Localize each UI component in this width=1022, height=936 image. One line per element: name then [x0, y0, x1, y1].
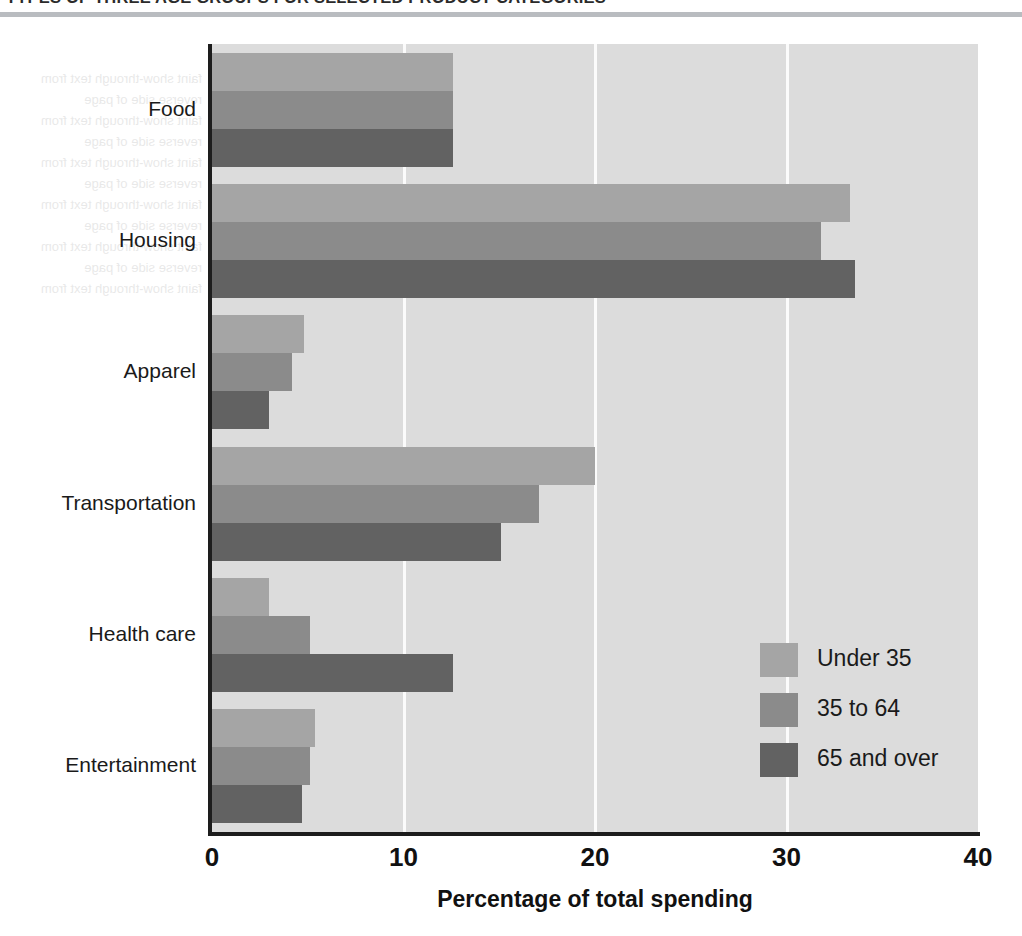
y-axis-line	[208, 44, 212, 834]
bar-food-35-to-64	[212, 91, 453, 129]
bar-housing-under-35	[212, 184, 850, 222]
bar-food-65-and-over	[212, 129, 453, 167]
legend-label-35-to-64: 35 to 64	[817, 695, 900, 722]
x-tick-label-20: 20	[555, 842, 635, 873]
bar-housing-35-to-64	[212, 222, 821, 260]
figure-header: TYPES OF THREE AGE GROUPS FOR SELECTED P…	[0, 0, 1022, 24]
category-label-health-care: Health care	[0, 622, 196, 646]
bar-apparel-under-35	[212, 315, 304, 353]
bar-health-care-under-35	[212, 578, 269, 616]
category-label-transportation: Transportation	[0, 491, 196, 515]
ghost-text-line: faint show-through text from reverse sid…	[12, 152, 202, 194]
legend-label-65-and-over: 65 and over	[817, 745, 938, 772]
bar-apparel-35-to-64	[212, 353, 292, 391]
bar-food-under-35	[212, 53, 453, 91]
legend-swatch-under-35	[760, 643, 798, 677]
bar-transportation-65-and-over	[212, 523, 501, 561]
x-tick-label-40: 40	[938, 842, 1018, 873]
category-label-food: Food	[0, 97, 196, 121]
bar-transportation-under-35	[212, 447, 595, 485]
bar-entertainment-under-35	[212, 709, 315, 747]
x-tick-label-30: 30	[747, 842, 827, 873]
ghost-text-line: faint show-through text from reverse sid…	[12, 278, 202, 298]
bar-transportation-35-to-64	[212, 485, 539, 523]
legend-swatch-65-and-over	[760, 743, 798, 777]
x-axis-line	[208, 832, 980, 836]
x-tick-label-0: 0	[172, 842, 252, 873]
bar-health-care-35-to-64	[212, 616, 310, 654]
legend-swatch-35-to-64	[760, 693, 798, 727]
category-label-entertainment: Entertainment	[0, 753, 196, 777]
header-rule-divider	[0, 12, 1022, 17]
x-tick-label-10: 10	[364, 842, 444, 873]
bar-chart: faint show-through text from reverse sid…	[0, 24, 1022, 936]
bar-entertainment-35-to-64	[212, 747, 310, 785]
bar-health-care-65-and-over	[212, 654, 453, 692]
figure-title: TYPES OF THREE AGE GROUPS FOR SELECTED P…	[6, 0, 1016, 7]
category-label-housing: Housing	[0, 228, 196, 252]
bar-apparel-65-and-over	[212, 391, 269, 429]
x-axis-title: Percentage of total spending	[212, 886, 978, 913]
legend-label-under-35: Under 35	[817, 645, 912, 672]
bar-housing-65-and-over	[212, 260, 855, 298]
bar-entertainment-65-and-over	[212, 785, 302, 823]
gridline-20	[594, 44, 597, 832]
category-label-apparel: Apparel	[0, 359, 196, 383]
